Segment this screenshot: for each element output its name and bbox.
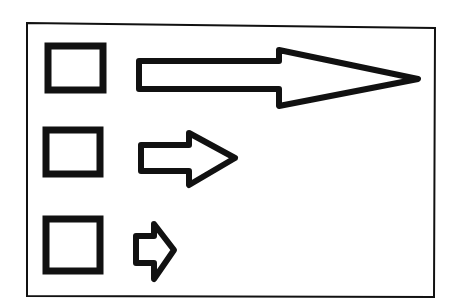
small-arrow-icon <box>136 224 174 279</box>
square-box <box>48 46 103 90</box>
row-3 <box>46 219 174 279</box>
square-box <box>46 219 100 271</box>
square-box <box>46 130 100 174</box>
arrows-diagram <box>0 0 455 307</box>
diagram-canvas <box>0 0 455 307</box>
medium-arrow-icon <box>141 133 235 185</box>
row-1 <box>48 46 418 106</box>
row-2 <box>46 130 235 185</box>
large-arrow-icon <box>139 50 418 106</box>
